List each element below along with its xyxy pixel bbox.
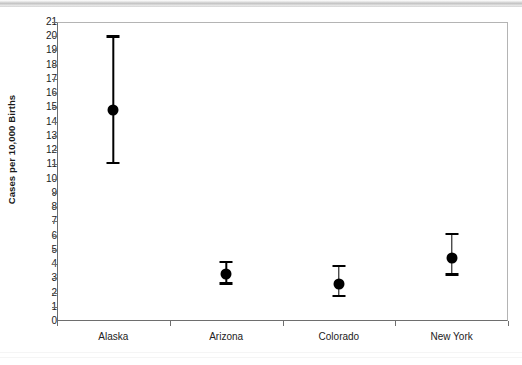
x-axis-tick-mark <box>395 321 396 326</box>
y-axis-tick-mark <box>52 179 57 180</box>
y-axis-tick-mark <box>52 50 57 51</box>
y-axis-tick-mark <box>52 250 57 251</box>
x-axis-tick-mark <box>57 321 58 326</box>
y-axis-tick-mark <box>52 278 57 279</box>
scan-noise-row <box>0 352 522 353</box>
x-axis-tick-label-new-york: New York <box>431 331 473 342</box>
y-axis-tick-mark <box>52 221 57 222</box>
y-axis-tick-mark <box>52 207 57 208</box>
y-axis-tick-mark <box>52 22 57 23</box>
y-axis-tick-mark <box>52 307 57 308</box>
y-axis-tick-mark <box>52 150 57 151</box>
y-axis-tick-mark <box>52 79 57 80</box>
scan-noise-row <box>0 357 522 358</box>
x-axis-tick-label-colorado: Colorado <box>319 331 360 342</box>
y-axis-tick-mark <box>52 236 57 237</box>
y-axis-tick-mark <box>52 122 57 123</box>
x-axis-tick-label-alaska: Alaska <box>98 331 128 342</box>
x-axis-tick-marks <box>0 321 522 329</box>
x-axis-tick-mark <box>508 321 509 326</box>
y-axis-tick-mark <box>52 293 57 294</box>
x-axis-tick-mark <box>170 321 171 326</box>
x-axis-tick-mark <box>283 321 284 326</box>
y-axis-tick-mark <box>52 93 57 94</box>
y-axis-tick-mark <box>52 164 57 165</box>
y-axis-tick-mark <box>52 264 57 265</box>
scan-artifact-line <box>0 6 522 7</box>
chart-figure: Cases per 10,000 Births 2120191817161514… <box>0 0 522 365</box>
y-axis-tick-mark <box>52 65 57 66</box>
y-axis-tick-mark <box>52 136 57 137</box>
y-axis-tick-mark <box>52 193 57 194</box>
plot-area <box>57 22 508 321</box>
y-axis-tick-mark <box>52 36 57 37</box>
y-axis-tick-marks <box>0 22 57 321</box>
y-axis-tick-mark <box>52 107 57 108</box>
x-axis-tick-label-arizona: Arizona <box>209 331 243 342</box>
